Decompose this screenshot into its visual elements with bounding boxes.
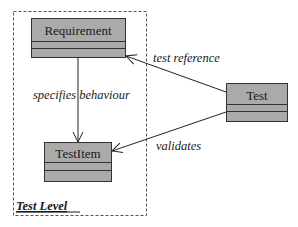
- edge-label: specifies behaviour: [33, 88, 130, 102]
- class-name: Requirement: [44, 23, 112, 38]
- association-validates: validates: [112, 112, 226, 153]
- uml-diagram: Test Level Requirement TestItem Test spe…: [0, 0, 298, 227]
- class-test[interactable]: Test: [227, 84, 288, 122]
- class-requirement[interactable]: Requirement: [32, 19, 126, 58]
- frame-label: Test Level: [16, 199, 68, 213]
- class-name: Test: [246, 88, 268, 103]
- edge-label: test reference: [153, 51, 220, 65]
- class-name: TestItem: [55, 146, 100, 161]
- edge-label: validates: [156, 139, 201, 153]
- association-specifies-behaviour: specifies behaviour: [33, 58, 130, 143]
- association-test-reference: test reference: [126, 51, 226, 92]
- class-testitem[interactable]: TestItem: [45, 143, 112, 182]
